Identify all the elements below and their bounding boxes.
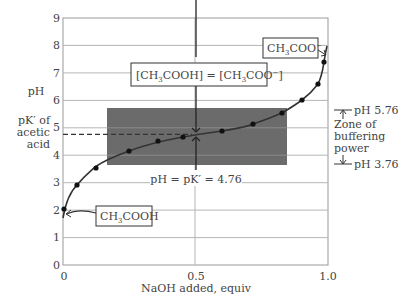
y-tick-labels: 0 1 2 3 4 5 6 7 8 9 bbox=[53, 12, 60, 272]
svg-text:power: power bbox=[334, 142, 370, 155]
titration-chart: 0 1 2 3 4 5 6 7 8 9 0 0.5 1.0 NaOH added… bbox=[0, 0, 408, 306]
acid-label: CH3COOH bbox=[100, 210, 159, 225]
ph-low-label: pH 3.76 bbox=[354, 158, 399, 171]
svg-text:0: 0 bbox=[53, 259, 60, 272]
svg-text:3: 3 bbox=[53, 176, 60, 189]
svg-text:6: 6 bbox=[53, 94, 60, 107]
svg-text:0: 0 bbox=[61, 270, 68, 283]
svg-text:1: 1 bbox=[53, 231, 60, 244]
x-axis-title: NaOH added, equiv bbox=[141, 282, 252, 295]
svg-text:9: 9 bbox=[53, 12, 60, 25]
ph-high-label: pH 5.76 bbox=[354, 104, 399, 117]
zone-label: Zone of buffering power bbox=[334, 118, 385, 155]
y-axis-title: pH bbox=[28, 85, 45, 98]
svg-text:8: 8 bbox=[53, 39, 60, 52]
svg-text:5: 5 bbox=[53, 121, 60, 134]
svg-text:1.0: 1.0 bbox=[319, 270, 337, 283]
base-label: CH3COO− bbox=[267, 42, 322, 57]
svg-text:acid: acid bbox=[27, 138, 50, 151]
equal-conc-label: [CH3COOH] = [CH3COO−] bbox=[136, 69, 283, 84]
buffer-zone-shade bbox=[107, 108, 287, 165]
svg-text:2: 2 bbox=[53, 204, 60, 217]
svg-text:7: 7 bbox=[53, 67, 60, 80]
pk-equation-label: pH = pK′ = 4.76 bbox=[150, 173, 241, 186]
svg-text:4: 4 bbox=[53, 149, 60, 162]
acid-pointer bbox=[67, 211, 96, 214]
pk-label: pK′ of acetic acid bbox=[17, 114, 51, 151]
